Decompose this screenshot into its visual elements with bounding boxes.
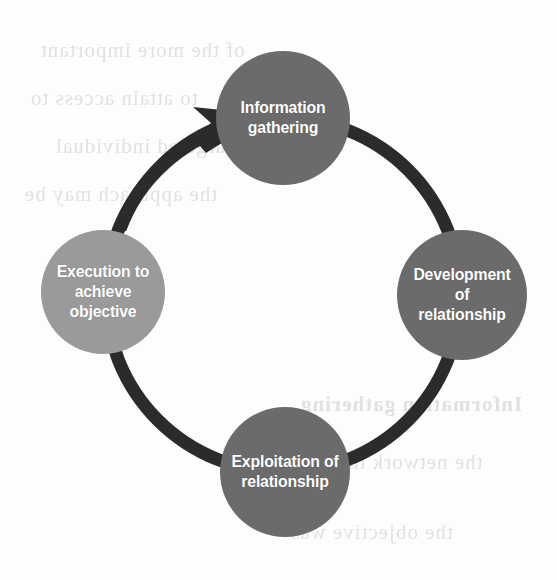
node-circle-exploitation-of-relationship[interactable] (220, 407, 350, 537)
node-circle-development-of-relationship[interactable] (397, 230, 527, 360)
cycle-diagram-canvas (0, 0, 557, 580)
cycle-diagram: of the more important to attain access t… (0, 0, 557, 580)
node-circle-execution-to-achieve-objective[interactable] (41, 230, 165, 354)
node-circle-information-gathering[interactable] (216, 51, 350, 185)
